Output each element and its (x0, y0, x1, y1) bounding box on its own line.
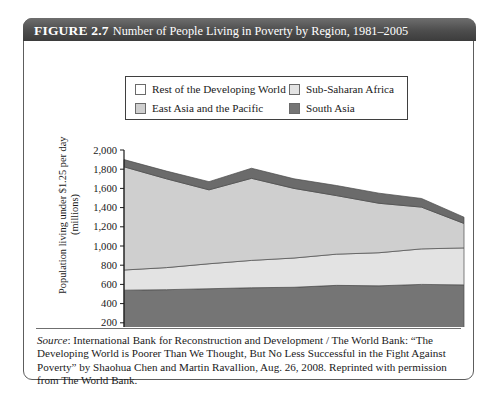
figure-number: FIGURE 2.7 (34, 23, 109, 38)
legend-label-south-asia: South Asia (306, 103, 355, 114)
legend-swatch-sub-saharan-africa (289, 84, 300, 95)
source-note: Source: International Bank for Reconstru… (24, 328, 473, 380)
legend-item-south-asia: South Asia (289, 99, 355, 118)
y-tick-label: 200 (101, 317, 117, 327)
y-tick-label: 1,600 (93, 183, 117, 194)
legend-item-east-asia-and-the-pacific: East Asia and the Pacific (135, 99, 263, 118)
source-text-block: Source: International Bank for Reconstru… (37, 334, 461, 388)
legend-label-rest-of-developing-world: Rest of the Developing World (152, 84, 286, 95)
legend-swatch-east-asia-and-the-pacific (135, 103, 146, 114)
y-tick-label: 2,000 (93, 145, 117, 156)
y-tick-label: 400 (101, 298, 117, 309)
legend-item-sub-saharan-africa: Sub-Saharan Africa (289, 80, 394, 99)
legend-item-rest-of-developing-world: Rest of the Developing World (135, 80, 286, 99)
figure-title: Number of People Living in Poverty by Re… (113, 24, 408, 38)
legend-label-east-asia-and-the-pacific: East Asia and the Pacific (152, 103, 263, 114)
legend-swatch-rest-of-developing-world (135, 84, 146, 95)
y-tick-label: 1,000 (93, 241, 117, 252)
legend-swatch-south-asia (289, 103, 300, 114)
y-tick-label: 800 (101, 260, 117, 271)
y-tick-label: 600 (101, 279, 117, 290)
chart-region: Population living under $1.25 per day (m… (24, 42, 473, 327)
source-divider (36, 328, 461, 329)
legend-row: East Asia and the Pacific South Asia (126, 99, 407, 118)
y-tick-label: 1,200 (93, 221, 117, 232)
legend-label-sub-saharan-africa: Sub-Saharan Africa (306, 84, 394, 95)
source-word: Source (37, 334, 67, 346)
figure-header-bar: FIGURE 2.7Number of People Living in Pov… (23, 18, 476, 41)
y-tick-label: 1,400 (93, 202, 117, 213)
figure-container: FIGURE 2.7Number of People Living in Pov… (23, 18, 474, 380)
chart-legend: Rest of the Developing World Sub-Saharan… (125, 76, 408, 120)
source-citation: : International Bank for Reconstruction … (37, 334, 447, 386)
legend-row: Rest of the Developing World Sub-Saharan… (126, 80, 407, 99)
y-tick-label: 1,800 (93, 164, 117, 175)
